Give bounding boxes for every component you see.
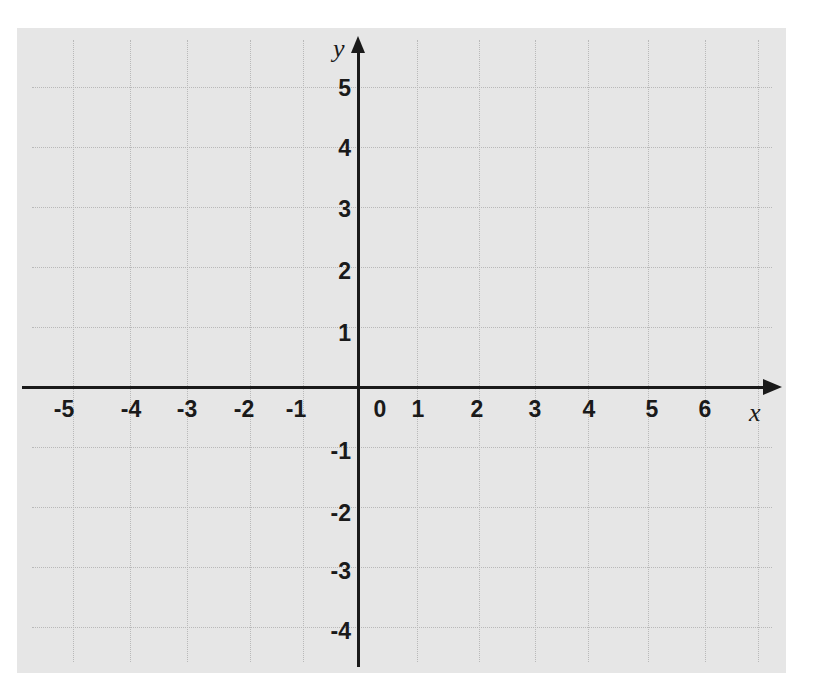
x-tick-label: -4 xyxy=(121,398,141,421)
x-tick-label: -2 xyxy=(234,398,254,421)
x-axis-line xyxy=(22,386,764,389)
horizontal-grid-line xyxy=(32,267,772,268)
y-tick-label: -3 xyxy=(311,560,351,583)
y-tick-label: 1 xyxy=(311,322,351,345)
vertical-grid-line xyxy=(535,40,536,662)
vertical-grid-line xyxy=(758,40,759,662)
vertical-grid-line xyxy=(73,40,74,662)
vertical-grid-line xyxy=(250,40,251,662)
y-axis-line xyxy=(357,50,360,667)
horizontal-grid-line xyxy=(32,567,772,568)
vertical-grid-line xyxy=(648,40,649,662)
x-tick-label: 6 xyxy=(699,398,712,421)
y-tick-label: -2 xyxy=(311,502,351,525)
x-tick-label: 3 xyxy=(529,398,542,421)
x-axis-arrow-icon xyxy=(763,379,782,395)
x-tick-label: -5 xyxy=(54,398,74,421)
coordinate-plane: -5-4-3-2-10123456 54321-1-2-3-4 x y xyxy=(0,0,814,693)
grid-paper xyxy=(17,28,786,673)
horizontal-grid-line xyxy=(32,147,772,148)
vertical-grid-line xyxy=(130,40,131,662)
x-tick-label: -1 xyxy=(286,398,306,421)
vertical-grid-line xyxy=(479,40,480,662)
vertical-grid-line xyxy=(705,40,706,662)
x-tick-label: 5 xyxy=(646,398,659,421)
x-tick-label: 4 xyxy=(583,398,596,421)
x-tick-label: -3 xyxy=(177,398,197,421)
y-tick-label: 3 xyxy=(311,198,351,221)
vertical-grid-line xyxy=(187,40,188,662)
y-axis-arrow-icon xyxy=(351,36,365,53)
horizontal-grid-line xyxy=(32,327,772,328)
x-tick-label: 2 xyxy=(471,398,484,421)
vertical-grid-line xyxy=(588,40,589,662)
horizontal-grid-line xyxy=(32,207,772,208)
x-tick-label: 1 xyxy=(412,398,425,421)
x-axis-label: x xyxy=(749,400,761,426)
vertical-grid-line xyxy=(417,40,418,662)
y-tick-label: 4 xyxy=(311,137,351,160)
y-tick-label: -4 xyxy=(311,620,351,643)
y-tick-label: 2 xyxy=(311,260,351,283)
y-axis-label: y xyxy=(333,36,345,62)
horizontal-grid-line xyxy=(32,507,772,508)
y-tick-label: 5 xyxy=(311,77,351,100)
horizontal-grid-line xyxy=(32,87,772,88)
horizontal-grid-line xyxy=(32,627,772,628)
horizontal-grid-line xyxy=(32,447,772,448)
x-tick-label: 0 xyxy=(374,398,387,421)
vertical-grid-line xyxy=(303,40,304,662)
y-tick-label: -1 xyxy=(311,440,351,463)
